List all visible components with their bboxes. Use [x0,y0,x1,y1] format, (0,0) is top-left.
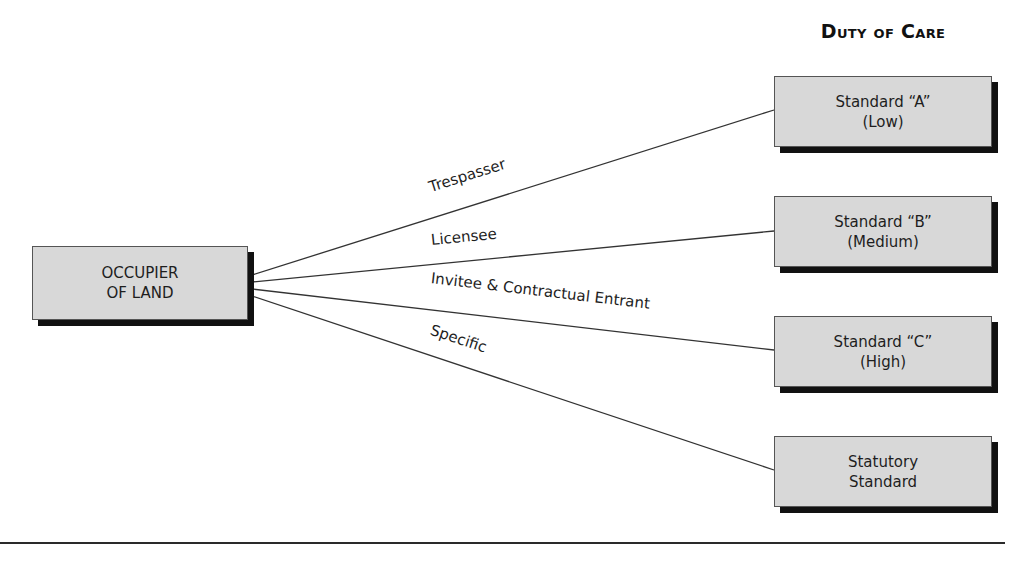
standard-c-label: Standard “C” (High) [834,332,933,372]
edge-specific [252,296,774,470]
standard-a-box: Standard “A” (Low) [774,76,992,147]
occupier-of-land-label: OCCUPIER OF LAND [101,263,178,303]
standard-c-box: Standard “C” (High) [774,316,992,387]
edge-invitee [252,289,774,350]
bottom-rule [0,542,1005,544]
statutory-standard-label: Statutory Standard [848,452,918,492]
standard-a-label: Standard “A” (Low) [835,92,930,132]
occupier-of-land-box: OCCUPIER OF LAND [32,246,248,320]
statutory-standard-box: Statutory Standard [774,436,992,507]
standard-b-label: Standard “B” (Medium) [834,212,932,252]
edge-licensee [252,231,774,282]
standard-b-box: Standard “B” (Medium) [774,196,992,267]
edge-trespasser [252,110,774,275]
